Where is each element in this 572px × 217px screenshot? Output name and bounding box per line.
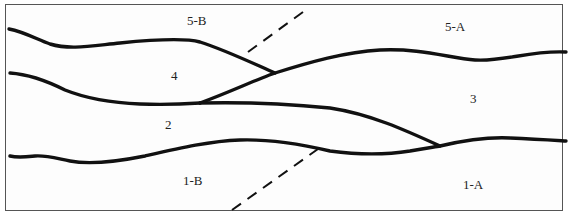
label-unit-2: 2 [165,118,172,131]
boundary-5a-3 [200,50,566,103]
cross-section-diagram [0,0,572,217]
label-unit-1a: 1-A [463,178,483,191]
label-unit-4: 4 [171,69,178,82]
label-unit-5b: 5-B [187,14,207,27]
fault-line-lower [232,149,318,210]
boundary-2-1 [10,138,566,163]
label-unit-1b: 1-B [183,174,203,187]
boundary-5b-4 [9,29,275,73]
fault-line-upper [248,12,303,52]
label-unit-5a: 5-A [445,20,465,33]
label-unit-3: 3 [470,92,477,105]
